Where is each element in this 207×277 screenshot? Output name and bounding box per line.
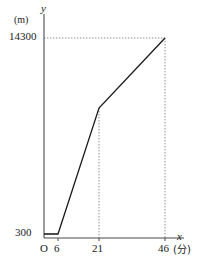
x-tick-label-6: 6 (54, 243, 60, 254)
y-axis-name-label: y (41, 3, 46, 14)
origin-label: O (40, 243, 48, 254)
y-axis-unit-label: (m) (14, 15, 28, 25)
x-tick-label-21: 21 (92, 243, 103, 254)
y-tick-label-300: 300 (15, 227, 32, 238)
x-axis-unit-label: (分) (173, 245, 191, 255)
x-tick-label-46: 46 (158, 243, 169, 254)
x-axis-name-label: x (177, 231, 182, 242)
y-tick-label-14300: 14300 (9, 31, 37, 42)
